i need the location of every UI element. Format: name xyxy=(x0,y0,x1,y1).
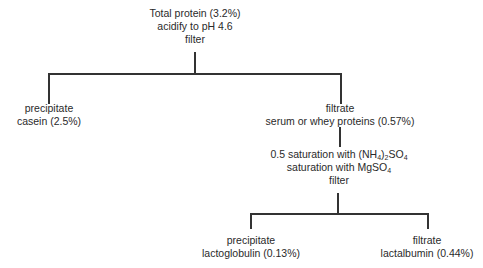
whey-drop-line xyxy=(340,73,342,104)
lactoglobulin-drop-line xyxy=(250,213,252,229)
casein-precipitate-label: precipitate xyxy=(17,102,81,115)
lactoglobulin-label: lactoglobulin (0.13%) xyxy=(202,247,300,260)
casein-node: precipitate casein (2.5%) xyxy=(17,102,81,128)
lactalbumin-drop-line xyxy=(427,213,429,229)
salting-out-step-node: 0.5 saturation with (NH4)2SO4 saturation… xyxy=(270,148,407,187)
casein-drop-line xyxy=(48,73,50,104)
root-node-total-protein: Total protein (3.2%) acidify to pH 4.6 f… xyxy=(149,7,240,46)
root-label: Total protein (3.2%) xyxy=(149,7,240,20)
lactalbumin-label: lactalbumin (0.44%) xyxy=(381,247,474,260)
filter-step: filter xyxy=(270,174,407,187)
ammonium-sulfate-step: 0.5 saturation with (NH4)2SO4 xyxy=(270,148,407,161)
whey-stem-line xyxy=(339,127,341,147)
magnesium-sulfate-step: saturation with MgSO4 xyxy=(270,161,407,174)
step2-stem-line xyxy=(337,193,339,213)
lactalbumin-node: filtrate lactalbumin (0.44%) xyxy=(381,234,474,260)
whey-filtrate-label: filtrate xyxy=(266,102,415,115)
root-stem-line xyxy=(194,52,196,73)
lactoglobulin-precipitate-label: precipitate xyxy=(202,234,300,247)
lactalbumin-filtrate-label: filtrate xyxy=(381,234,474,247)
root-branch-line xyxy=(48,73,341,75)
casein-label: casein (2.5%) xyxy=(17,115,81,128)
lactoglobulin-node: precipitate lactoglobulin (0.13%) xyxy=(202,234,300,260)
whey-node: filtrate serum or whey proteins (0.57%) xyxy=(266,102,415,128)
root-step-acidify: acidify to pH 4.6 xyxy=(149,20,240,33)
step2-branch-line xyxy=(250,213,428,215)
root-step-filter: filter xyxy=(149,33,240,46)
